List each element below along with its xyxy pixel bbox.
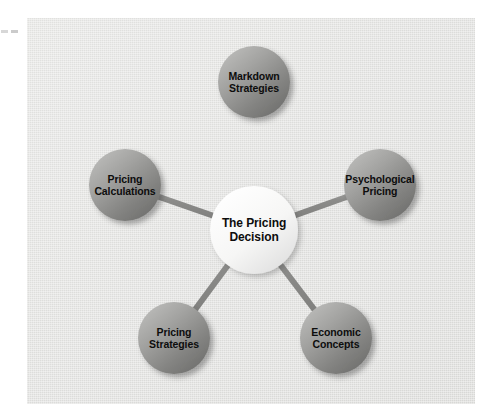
node-circle-pricing-strategies[interactable]	[138, 302, 210, 374]
node-circle-markdown-strategies[interactable]	[218, 46, 290, 118]
hub-circle-the-pricing-decision[interactable]	[210, 186, 298, 274]
node-circle-psychological-pricing[interactable]	[344, 149, 416, 221]
node-circle-economic-concepts[interactable]	[300, 302, 372, 374]
diagram-stage: Markdown Strategies Psychological Pricin…	[0, 0, 499, 420]
pricing-decision-diagram	[0, 0, 499, 420]
node-circle-pricing-calculations[interactable]	[89, 149, 161, 221]
